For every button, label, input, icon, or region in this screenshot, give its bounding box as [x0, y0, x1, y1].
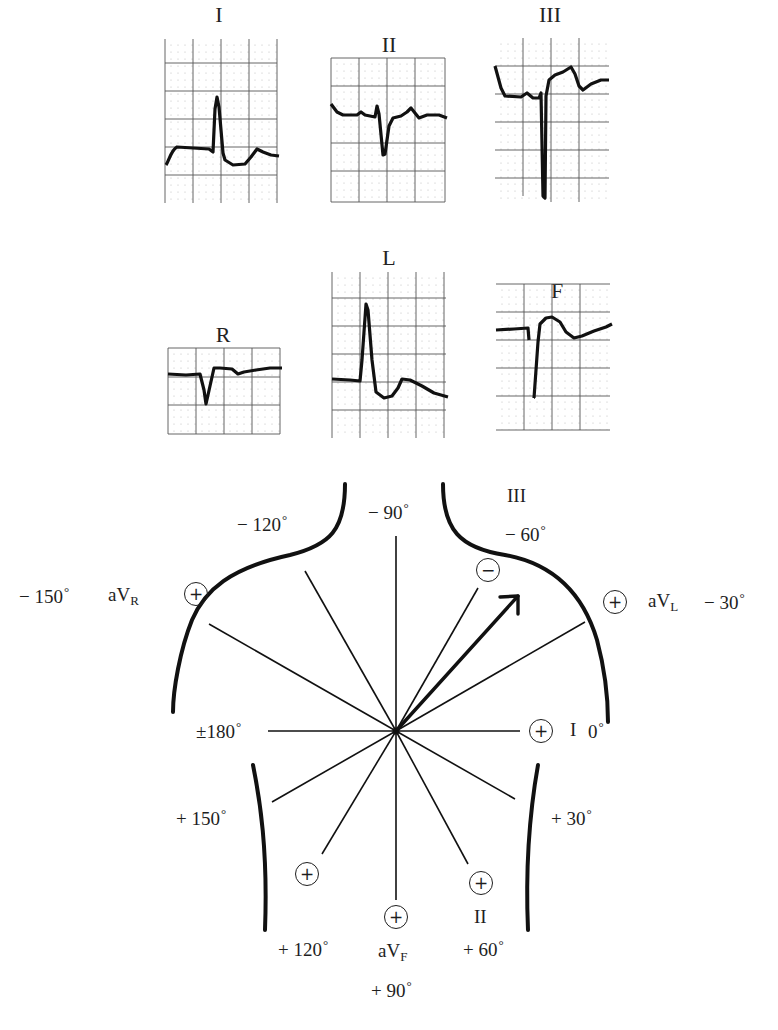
axis-III-neg: [396, 588, 478, 731]
label-minus-30: − 30: [704, 590, 745, 614]
label-minus-60: − 60: [505, 522, 546, 546]
label-minus-120: − 120: [237, 512, 287, 536]
pole-III-positive: +: [295, 862, 319, 886]
pole-aVL-positive: +: [603, 590, 627, 614]
label-aVF: aVF: [378, 940, 407, 965]
label-plus-30: + 30: [551, 806, 592, 830]
label-plus-90: + 90: [371, 978, 412, 1002]
pole-aVR-positive: +: [184, 582, 208, 606]
label-minus-150: − 150: [19, 584, 69, 608]
axis-aVL-neg: [272, 731, 396, 802]
axis-aVR-neg: [209, 624, 396, 731]
label-plus-60: + 60: [463, 937, 504, 961]
torso-outline: [173, 484, 608, 930]
label-plus-minus-180: ±180: [196, 719, 241, 743]
ecg-hexaxial-figure: I II: [0, 0, 778, 1030]
mean-axis-arrow: [396, 596, 518, 731]
label-lead-I: I: [570, 719, 576, 741]
label-aVR: aVR: [108, 584, 139, 609]
label-minus-90: − 90: [368, 500, 409, 524]
pole-II-positive: +: [469, 871, 493, 895]
axis-aVL: [396, 622, 585, 731]
label-plus-120: + 120: [278, 937, 328, 961]
label-aVL: aVL: [648, 590, 678, 615]
label-lead-II: II: [474, 906, 487, 928]
label-lead-III-top: III: [507, 485, 526, 507]
label-plus-150: + 150: [176, 806, 226, 830]
axis-III: [322, 731, 396, 854]
pole-aVF-positive: +: [384, 905, 408, 929]
label-zero: 0: [588, 719, 604, 743]
pole-I-positive: +: [529, 719, 553, 743]
pole-III-negative: −: [476, 558, 500, 582]
axis-center-point: [393, 728, 400, 735]
axis-II-neg: [305, 571, 396, 731]
